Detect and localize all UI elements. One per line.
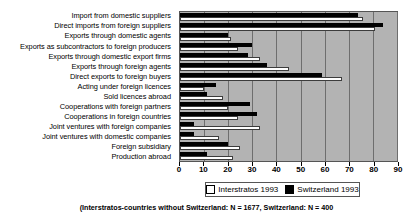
bar-interstratos-1993 — [180, 37, 231, 41]
bar-interstratos-1993 — [180, 67, 289, 71]
x-axis-tick-label: 70 — [345, 165, 354, 174]
bar-group — [180, 82, 397, 92]
bar-group — [180, 92, 397, 102]
x-axis-tick-label: 30 — [248, 165, 257, 174]
bar-group — [180, 141, 397, 151]
category-label: Foreign subsidiary — [0, 142, 174, 152]
x-axis-tick-label: 80 — [369, 165, 378, 174]
x-axis-tick-label: 10 — [199, 165, 208, 174]
x-axis-tick-labels: 0102030405060708090 — [179, 165, 398, 177]
bar-interstratos-1993 — [180, 17, 363, 21]
category-label: Acting under foreign licences — [0, 81, 174, 91]
chart-footnote: (Interstratos-countries without Switzerl… — [0, 203, 413, 212]
category-axis-labels: Import from domestic suppliersDirect imp… — [0, 11, 174, 162]
bar-chart: Import from domestic suppliersDirect imp… — [0, 0, 413, 218]
category-label: Joint ventures with domestic companies — [0, 132, 174, 142]
category-label: Exports through foreign agents — [0, 61, 174, 71]
category-label: Exports as subcontractors to foreign pro… — [0, 41, 174, 51]
bar-interstratos-1993 — [180, 116, 238, 120]
bar-group — [180, 131, 397, 141]
bar-group — [180, 72, 397, 82]
bar-series-container — [180, 12, 397, 161]
bar-interstratos-1993 — [180, 27, 375, 31]
x-axis-tick-label: 60 — [321, 165, 330, 174]
bar-interstratos-1993 — [180, 126, 260, 130]
bar-interstratos-1993 — [180, 106, 228, 110]
category-label: Sold licences abroad — [0, 92, 174, 102]
bar-group — [180, 62, 397, 72]
chart-legend: Interstratos 1993Switzerland 1993 — [205, 182, 360, 197]
bar-group — [180, 52, 397, 62]
legend-label: Interstratos 1993 — [218, 185, 278, 194]
plot-area — [179, 11, 398, 162]
category-label: Import from domestic suppliers — [0, 11, 174, 21]
bar-interstratos-1993 — [180, 87, 204, 91]
bar-group — [180, 111, 397, 121]
bar-group — [180, 22, 397, 32]
bar-interstratos-1993 — [180, 156, 233, 160]
bar-group — [180, 42, 397, 52]
bar-interstratos-1993 — [180, 47, 238, 51]
legend-entry: Interstratos 1993 — [206, 185, 278, 194]
category-label: Exports through domestic agents — [0, 31, 174, 41]
bar-interstratos-1993 — [180, 136, 219, 140]
bar-interstratos-1993 — [180, 146, 240, 150]
category-label: Direct exports to foreign buyers — [0, 71, 174, 81]
category-label: Cooperations with foreign partners — [0, 102, 174, 112]
category-label: Direct imports from foreign suppliers — [0, 21, 174, 31]
category-label: Production abroad — [0, 152, 174, 162]
bar-group — [180, 121, 397, 131]
bar-group — [180, 32, 397, 42]
legend-entry: Switzerland 1993 — [285, 185, 358, 194]
bar-interstratos-1993 — [180, 57, 260, 61]
x-axis-tick-label: 40 — [272, 165, 281, 174]
legend-label: Switzerland 1993 — [297, 185, 358, 194]
category-label: Cooperations in foreign countries — [0, 112, 174, 122]
bar-interstratos-1993 — [180, 77, 342, 81]
gridline — [397, 12, 398, 161]
bar-group — [180, 12, 397, 22]
bar-group — [180, 151, 397, 161]
bar-interstratos-1993 — [180, 96, 223, 100]
bar-group — [180, 101, 397, 111]
x-axis-tick-label: 90 — [394, 165, 403, 174]
category-label: Joint ventures with foreign companies — [0, 122, 174, 132]
x-axis-tick-label: 20 — [223, 165, 232, 174]
white-square-icon — [206, 185, 215, 194]
category-label: Exports through domestic export firms — [0, 51, 174, 61]
x-axis-tick-label: 0 — [177, 165, 181, 174]
x-axis-tick-label: 50 — [296, 165, 305, 174]
black-square-icon — [285, 185, 294, 194]
